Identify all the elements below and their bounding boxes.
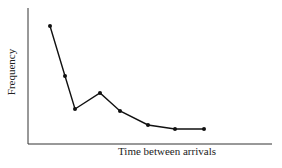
frequency-line (50, 26, 204, 129)
y-axis-label-text: Frequency (5, 49, 17, 95)
y-axis-label: Frequency (2, 0, 20, 144)
x-axis-label: Time between arrivals (28, 145, 272, 157)
data-point-marker (173, 127, 177, 131)
data-point-marker (202, 127, 206, 131)
line-chart (0, 0, 282, 168)
data-point-marker (63, 74, 67, 78)
data-point-marker (73, 107, 77, 111)
data-point-marker (118, 109, 122, 113)
data-point-marker (48, 24, 52, 28)
data-point-marker (98, 91, 102, 95)
data-point-marker (146, 123, 150, 127)
